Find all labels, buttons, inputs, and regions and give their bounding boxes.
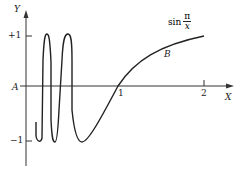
y-tick-label-minus-one: −1: [10, 135, 23, 145]
x-axis-arrow-icon: [226, 84, 234, 89]
x-tick-label-two: 2: [201, 88, 207, 98]
x-tick-label-one: 1: [118, 88, 124, 98]
curve-label-sin: sin: [168, 17, 181, 27]
curve-label-denominator: x: [185, 22, 190, 31]
x-axis-label: X: [225, 92, 231, 102]
origin-label: A: [12, 82, 19, 92]
y-tick-label-plus-one: +1: [8, 30, 21, 40]
curve-annotation-b: B: [164, 49, 171, 59]
curve-label: sin π x: [168, 12, 191, 31]
y-axis-label: Y: [14, 4, 20, 14]
y-axis-arrow-icon: [24, 10, 29, 18]
